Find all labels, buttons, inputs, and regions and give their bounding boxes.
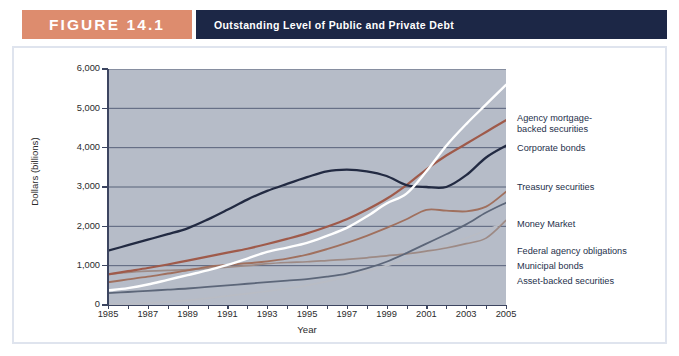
x-tick-label: 1987 bbox=[128, 310, 168, 319]
plot-area bbox=[108, 69, 506, 305]
x-tick-mark bbox=[367, 305, 368, 309]
x-tick-label: 1993 bbox=[247, 310, 287, 319]
y-tick-label: 1,000 bbox=[54, 261, 100, 270]
x-tick-label: 1995 bbox=[287, 310, 327, 319]
x-tick-mark bbox=[128, 305, 129, 309]
legend-label-treasury-securities: Treasury securities bbox=[517, 182, 594, 193]
chart-legend: Agency mortgage- backed securitiesCorpor… bbox=[511, 48, 671, 346]
y-axis-title: Dollars (billions) bbox=[29, 112, 40, 232]
figure-root: FIGURE 14.1 Outstanding Level of Public … bbox=[0, 0, 679, 356]
y-tick-label: 3,000 bbox=[54, 182, 100, 191]
y-tick-mark bbox=[102, 186, 108, 187]
figure-header: FIGURE 14.1 Outstanding Level of Public … bbox=[0, 10, 679, 39]
x-tick-mark bbox=[208, 305, 209, 309]
y-tick-mark bbox=[102, 265, 108, 266]
y-tick-label: 4,000 bbox=[54, 143, 100, 152]
chart-panel: 01,0002,0003,0004,0005,0006,000 19851987… bbox=[12, 46, 667, 344]
x-tick-label: 2003 bbox=[446, 310, 486, 319]
legend-label-municipal-bonds: Municipal bonds bbox=[517, 261, 583, 272]
x-tick-mark bbox=[287, 305, 288, 309]
y-tick-label: 5,000 bbox=[54, 104, 100, 113]
y-tick-label: 0 bbox=[54, 300, 100, 309]
y-tick-mark bbox=[102, 108, 108, 109]
x-tick-mark bbox=[446, 305, 447, 309]
x-tick-mark bbox=[168, 305, 169, 309]
y-tick-mark bbox=[102, 147, 108, 148]
x-tick-label: 1989 bbox=[168, 310, 208, 319]
x-axis-title: Year bbox=[107, 324, 507, 335]
x-tick-label: 1991 bbox=[207, 310, 247, 319]
figure-title: Outstanding Level of Public and Private … bbox=[196, 19, 454, 31]
x-tick-label: 1999 bbox=[367, 310, 407, 319]
x-tick-mark bbox=[247, 305, 248, 309]
legend-label-asset-backed-securities: Asset-backed securities bbox=[517, 276, 614, 287]
legend-label-agency-mortgage-backed-securities: Agency mortgage- backed securities bbox=[517, 113, 592, 136]
figure-number-box: FIGURE 14.1 bbox=[22, 10, 192, 39]
plot-svg bbox=[108, 69, 506, 305]
legend-label-money-market: Money Market bbox=[517, 219, 575, 230]
x-tick-mark bbox=[407, 305, 408, 309]
line-chart: 01,0002,0003,0004,0005,0006,000 19851987… bbox=[14, 48, 669, 346]
x-tick-label: 1997 bbox=[327, 310, 367, 319]
figure-title-bar: Outstanding Level of Public and Private … bbox=[196, 10, 667, 39]
y-tick-label: 6,000 bbox=[54, 64, 100, 73]
x-tick-mark bbox=[327, 305, 328, 309]
legend-label-federal-agency-obligations: Federal agency obligations bbox=[517, 246, 627, 257]
y-tick-mark bbox=[102, 68, 108, 69]
figure-number-label: FIGURE 14.1 bbox=[49, 16, 165, 34]
legend-label-corporate-bonds: Corporate bonds bbox=[517, 143, 585, 154]
y-tick-mark bbox=[102, 226, 108, 227]
y-tick-label: 2,000 bbox=[54, 222, 100, 231]
x-tick-mark bbox=[486, 305, 487, 309]
x-tick-label: 1985 bbox=[88, 310, 128, 319]
x-tick-label: 2001 bbox=[406, 310, 446, 319]
